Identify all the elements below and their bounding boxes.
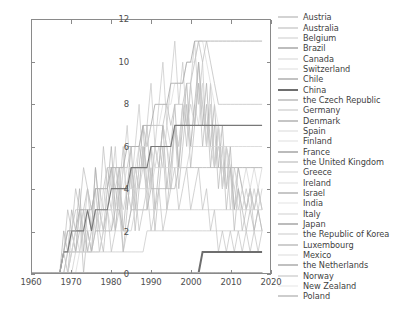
legend-item[interactable]: Denmark bbox=[278, 115, 402, 125]
legend-line-icon bbox=[278, 229, 298, 239]
legend-line-icon bbox=[278, 198, 298, 208]
legend-item-label: Germany bbox=[303, 105, 340, 115]
y-tick-mark bbox=[31, 232, 35, 233]
legend-item[interactable]: the Netherlands bbox=[278, 260, 402, 270]
legend-item-label: Switzerland bbox=[303, 64, 350, 74]
legend-line-icon bbox=[278, 43, 298, 53]
legend-line-icon bbox=[278, 178, 298, 188]
legend-item-label: Spain bbox=[303, 126, 326, 136]
x-tick-mark bbox=[31, 270, 32, 274]
legend-item-label: Luxembourg bbox=[303, 240, 354, 250]
series-line-china bbox=[32, 252, 262, 273]
y-tick-mark-right bbox=[267, 104, 271, 105]
legend-line-icon bbox=[278, 64, 298, 74]
x-tick-mark-top bbox=[31, 20, 32, 24]
y-tick-mark-right bbox=[267, 232, 271, 233]
legend-item[interactable]: Japan bbox=[278, 219, 402, 229]
y-tick-label: 10 bbox=[103, 57, 129, 67]
legend-item[interactable]: Germany bbox=[278, 105, 402, 115]
y-tick-mark bbox=[31, 274, 35, 275]
x-tick-label: 1990 bbox=[140, 277, 161, 287]
legend-item-label: Belgium bbox=[303, 33, 336, 43]
x-tick-mark bbox=[111, 270, 112, 274]
legend-item-label: the Czech Republic bbox=[303, 95, 380, 105]
legend-item[interactable]: Poland bbox=[278, 291, 402, 301]
legend-item[interactable]: India bbox=[278, 198, 402, 208]
legend-line-icon bbox=[278, 23, 298, 33]
legend-item-label: Greece bbox=[303, 167, 332, 177]
legend-item[interactable]: China bbox=[278, 84, 402, 94]
legend-line-icon bbox=[278, 291, 298, 301]
legend-item-label: China bbox=[303, 85, 326, 95]
legend-item-label: Poland bbox=[303, 291, 330, 301]
legend-item-label: Italy bbox=[303, 209, 321, 219]
legend-item-label: Canada bbox=[303, 54, 334, 64]
x-tick-mark-top bbox=[191, 20, 192, 24]
legend-item[interactable]: France bbox=[278, 146, 402, 156]
legend-item[interactable]: Chile bbox=[278, 74, 402, 84]
legend-line-icon bbox=[278, 74, 298, 84]
legend-item-label: Brazil bbox=[303, 43, 326, 53]
legend-item-label: Austria bbox=[303, 12, 332, 22]
y-tick-label: 8 bbox=[103, 99, 129, 109]
legend-item[interactable]: Finland bbox=[278, 136, 402, 146]
legend-item[interactable]: the Czech Republic bbox=[278, 95, 402, 105]
legend-line-icon bbox=[278, 33, 298, 43]
legend-item[interactable]: Switzerland bbox=[278, 64, 402, 74]
legend-item[interactable]: Israel bbox=[278, 188, 402, 198]
y-tick-mark bbox=[31, 147, 35, 148]
legend-item[interactable]: Luxembourg bbox=[278, 240, 402, 250]
legend-item-label: the Republic of Korea bbox=[303, 229, 389, 239]
x-tick-mark-top bbox=[231, 20, 232, 24]
legend-item-label: Ireland bbox=[303, 178, 331, 188]
legend-item[interactable]: Norway bbox=[278, 271, 402, 281]
chart-legend: AustriaAustraliaBelgiumBrazilCanadaSwitz… bbox=[278, 12, 402, 302]
legend-item-label: Mexico bbox=[303, 250, 331, 260]
legend-item[interactable]: Belgium bbox=[278, 33, 402, 43]
legend-item-label: France bbox=[303, 147, 330, 157]
legend-item-label: Australia bbox=[303, 23, 339, 33]
legend-item[interactable]: the United Kingdom bbox=[278, 157, 402, 167]
legend-line-icon bbox=[278, 54, 298, 64]
legend-line-icon bbox=[278, 136, 298, 146]
legend-line-icon bbox=[278, 85, 298, 95]
legend-item[interactable]: Mexico bbox=[278, 250, 402, 260]
legend-item[interactable]: Ireland bbox=[278, 178, 402, 188]
legend-item-label: the United Kingdom bbox=[303, 157, 384, 167]
y-tick-mark bbox=[31, 62, 35, 63]
x-tick-label: 2000 bbox=[180, 277, 201, 287]
legend-item[interactable]: Brazil bbox=[278, 43, 402, 53]
legend-line-icon bbox=[278, 116, 298, 126]
legend-item[interactable]: Australia bbox=[278, 22, 402, 32]
x-tick-mark bbox=[191, 270, 192, 274]
y-tick-label: 4 bbox=[103, 184, 129, 194]
legend-item[interactable]: Austria bbox=[278, 12, 402, 22]
x-tick-mark-top bbox=[111, 20, 112, 24]
x-tick-mark bbox=[231, 270, 232, 274]
legend-item[interactable]: Greece bbox=[278, 167, 402, 177]
y-tick-label: 2 bbox=[103, 227, 129, 237]
legend-item-label: Finland bbox=[303, 136, 332, 146]
x-tick-label: 1970 bbox=[60, 277, 81, 287]
legend-item[interactable]: Italy bbox=[278, 209, 402, 219]
y-tick-label: 12 bbox=[103, 14, 129, 24]
legend-item-label: Japan bbox=[303, 219, 326, 229]
legend-item[interactable]: Canada bbox=[278, 53, 402, 63]
x-tick-label: 2020 bbox=[260, 277, 281, 287]
x-tick-label: 1980 bbox=[100, 277, 121, 287]
plot-area bbox=[31, 19, 271, 274]
legend-line-icon bbox=[278, 12, 298, 22]
y-tick-label: 6 bbox=[103, 142, 129, 152]
legend-item[interactable]: New Zealand bbox=[278, 281, 402, 291]
legend-line-icon bbox=[278, 126, 298, 136]
x-tick-mark-top bbox=[271, 20, 272, 24]
legend-item[interactable]: Spain bbox=[278, 126, 402, 136]
y-tick-mark-right bbox=[267, 147, 271, 148]
legend-line-icon bbox=[278, 250, 298, 260]
x-tick-mark bbox=[271, 270, 272, 274]
y-tick-mark-right bbox=[267, 189, 271, 190]
legend-item[interactable]: the Republic of Korea bbox=[278, 229, 402, 239]
series-line-the-united-kingdom bbox=[32, 41, 262, 273]
legend-line-icon bbox=[278, 147, 298, 157]
legend-item-label: Norway bbox=[303, 271, 334, 281]
